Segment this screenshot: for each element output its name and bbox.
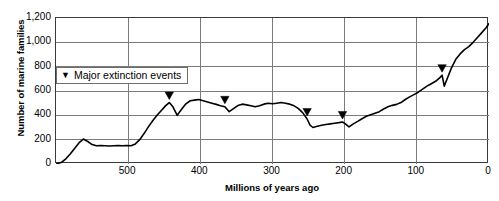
y-tick-label: 800	[5, 61, 51, 71]
chart-figure: Number of marine families 02004006008001…	[0, 0, 499, 201]
y-tick-label: 1,200	[5, 12, 51, 22]
legend-box: ▼ Major extinction events	[56, 67, 188, 84]
x-tick-label: 0	[468, 166, 499, 176]
plot-area	[55, 17, 488, 163]
chart-svg	[56, 18, 489, 164]
x-axis-title: Millions of years ago	[55, 182, 489, 193]
extinction-marker-ordovician-extinction	[165, 92, 173, 100]
y-axis-tick-labels: 02004006008001,0001,200	[0, 0, 51, 201]
chart-title-remnant	[120, 0, 380, 7]
legend-label: Major extinction events	[74, 70, 181, 81]
y-tick-label: 600	[5, 85, 51, 95]
x-tick-label: 300	[252, 166, 292, 176]
extinction-marker-cretaceous-extinction	[438, 65, 446, 73]
extinction-markers	[165, 65, 446, 119]
x-tick-label: 500	[107, 166, 147, 176]
x-tick-label: 200	[324, 166, 364, 176]
triangle-down-icon: ▼	[61, 71, 70, 80]
extinction-marker-devonian-extinction	[221, 96, 229, 104]
y-tick-label: 400	[5, 109, 51, 119]
x-tick-label: 100	[396, 166, 436, 176]
y-tick-label: 1,000	[5, 36, 51, 46]
x-tick-label: 400	[179, 166, 219, 176]
y-tick-label: 0	[5, 158, 51, 168]
gridlines	[56, 18, 489, 164]
y-tick-label: 200	[5, 134, 51, 144]
